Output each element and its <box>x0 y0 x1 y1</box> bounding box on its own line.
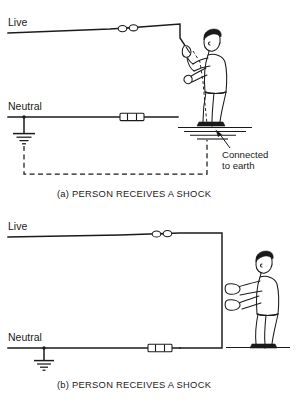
panel-a-annotation-line-1: Connected <box>222 149 268 160</box>
panel-b-person <box>225 251 279 348</box>
panel-b-neutral-connector <box>148 344 172 351</box>
panel-a-earth-symbol <box>13 115 35 144</box>
panel-a-neutral-label: Neutral <box>8 100 42 112</box>
panel-b-live-label: Live <box>8 220 27 232</box>
panel-a-live-connector <box>118 25 138 32</box>
electrical-shock-diagram: Live Neutral Connected to earth (a) PERS… <box>0 0 298 411</box>
panel-b-neutral-label: Neutral <box>8 331 42 343</box>
panel-a-neutral-connector <box>120 113 144 120</box>
panel-a-ground-surface <box>178 128 252 140</box>
panel-a-live-wire <box>8 24 186 47</box>
panel-a-annotation-line-2: to earth <box>222 160 255 171</box>
panel-b-earth-symbol <box>34 346 54 370</box>
panel-a: Live Neutral Connected to earth (a) PERS… <box>8 16 268 199</box>
panel-a-live-label: Live <box>8 16 27 28</box>
panel-b-caption: (b) PERSON RECEIVES A SHOCK <box>57 379 212 390</box>
panel-a-person <box>182 29 226 126</box>
panel-a-caption: (a) PERSON RECEIVES A SHOCK <box>57 188 212 199</box>
panel-b: Live Neutral (b) PERSON RECEIVES A SHOCK <box>8 220 290 390</box>
panel-b-live-connector <box>152 231 172 238</box>
diagram-canvas: Live Neutral Connected to earth (a) PERS… <box>0 0 298 411</box>
panel-a-earth-return-path <box>24 140 207 174</box>
